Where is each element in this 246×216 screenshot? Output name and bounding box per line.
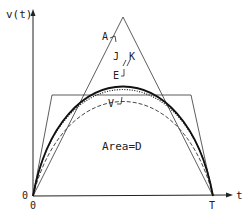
label-v-leader: [117, 97, 122, 104]
end-time-label: T: [209, 200, 215, 211]
curve-j-label: J: [113, 51, 119, 62]
curve-e-label: E: [113, 70, 119, 81]
x-axis-label: t: [236, 189, 243, 202]
y-axis-label: v(t): [6, 8, 33, 21]
label-e-leader: [121, 69, 124, 76]
velocity-profile-diagram: v(t) t 0 0 T A J K E V Area=D: [0, 0, 246, 216]
origin-label: 0: [22, 190, 28, 201]
x-axis-arrow-icon: [226, 193, 233, 198]
curve-a-triangle: [33, 17, 213, 196]
curve-a-label: A: [102, 31, 108, 42]
origin-tick-label: 0: [30, 200, 36, 211]
curve-k-label: K: [129, 51, 135, 62]
axes: [31, 9, 234, 198]
label-j-leader: [123, 60, 126, 66]
curve-v-label: V: [108, 98, 114, 109]
area-label: Area=D: [102, 140, 142, 153]
x-axis: [33, 195, 228, 196]
